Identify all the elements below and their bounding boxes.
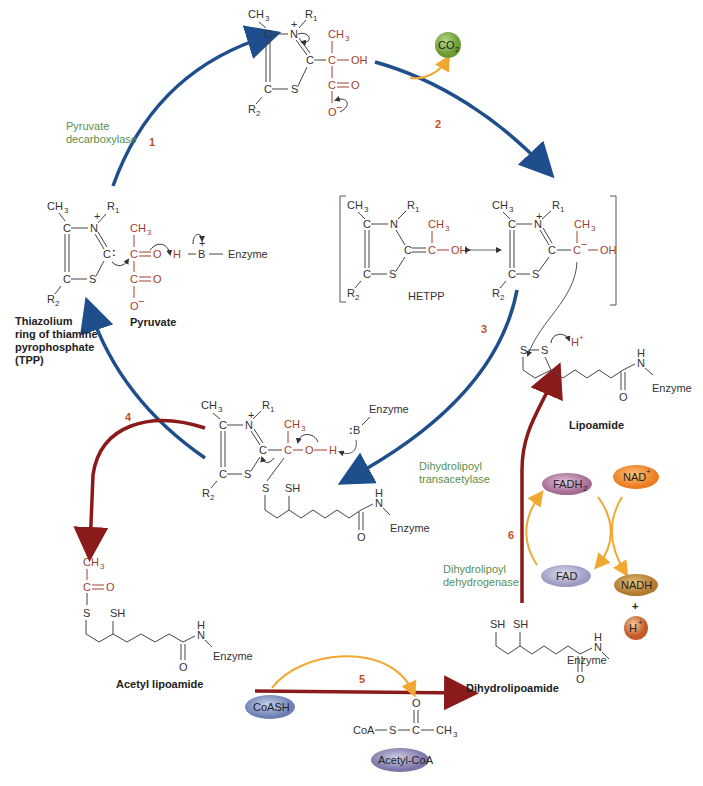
svg-text:Acetyl-CoA: Acetyl-CoA bbox=[378, 754, 434, 766]
step-3-enzyme-label-2: transacetylase bbox=[419, 473, 490, 485]
svg-text:R: R bbox=[347, 287, 355, 299]
svg-text:3: 3 bbox=[147, 228, 152, 237]
svg-text:1: 1 bbox=[560, 205, 565, 214]
coash-pill: CoASH bbox=[245, 695, 295, 719]
svg-text:NAD: NAD bbox=[623, 471, 646, 483]
svg-text:H: H bbox=[375, 487, 383, 499]
svg-text:CH: CH bbox=[83, 556, 99, 568]
plus-sign: + bbox=[632, 600, 638, 612]
step-1-enzyme-label: Pyruvate bbox=[66, 120, 109, 132]
svg-text:3: 3 bbox=[591, 224, 596, 233]
svg-text:H: H bbox=[571, 336, 579, 348]
step-4-number: 4 bbox=[125, 411, 132, 423]
lipoamide-caption: Lipoamide bbox=[569, 419, 624, 431]
svg-text:C: C bbox=[363, 268, 371, 280]
svg-text:3: 3 bbox=[453, 730, 458, 739]
svg-text:N: N bbox=[245, 419, 253, 431]
dihydrolipoamide: SH SH O N H Enzyme bbox=[490, 618, 609, 685]
tpp-caption: Thiazolium bbox=[15, 315, 73, 327]
svg-text:FAD: FAD bbox=[556, 570, 577, 582]
svg-text:3: 3 bbox=[265, 14, 270, 23]
svg-text:C: C bbox=[508, 268, 516, 280]
dihydrolipoamide-caption: Dihydrolipoamide bbox=[466, 682, 559, 694]
svg-text:−: − bbox=[581, 238, 587, 250]
svg-text:H: H bbox=[629, 622, 637, 634]
svg-text:H: H bbox=[329, 444, 337, 456]
svg-text:Enzyme: Enzyme bbox=[228, 248, 268, 260]
step-6-enzyme-label: Dihydrolipoyl bbox=[443, 563, 506, 575]
svg-text:S: S bbox=[291, 83, 298, 95]
svg-text:S: S bbox=[244, 468, 251, 480]
svg-text:C: C bbox=[130, 248, 138, 260]
svg-text:3: 3 bbox=[301, 424, 306, 433]
svg-text:CoASH: CoASH bbox=[253, 701, 290, 713]
svg-text:3: 3 bbox=[218, 405, 223, 414]
svg-text:H: H bbox=[594, 631, 602, 643]
svg-text:+: + bbox=[646, 467, 651, 476]
svg-text:Enzyme: Enzyme bbox=[369, 403, 409, 415]
svg-text:C: C bbox=[363, 218, 371, 230]
svg-text:C: C bbox=[264, 28, 272, 40]
svg-text:2: 2 bbox=[55, 299, 60, 308]
svg-text:3: 3 bbox=[345, 34, 350, 43]
co2-molecule: CO 2 bbox=[435, 32, 461, 58]
svg-text:C: C bbox=[219, 468, 227, 480]
svg-text:H: H bbox=[637, 347, 645, 359]
svg-text:R: R bbox=[492, 287, 500, 299]
svg-text:2: 2 bbox=[210, 493, 215, 502]
acetyl-coa-pill: Acetyl-CoA bbox=[371, 748, 434, 772]
svg-text:C: C bbox=[103, 248, 111, 260]
coash-to-acetylcoa-arrow bbox=[272, 656, 413, 692]
svg-text:Enzyme: Enzyme bbox=[213, 650, 253, 662]
nad-pill: NAD + bbox=[613, 465, 659, 489]
svg-text:+: + bbox=[579, 333, 584, 342]
svg-text:O: O bbox=[351, 79, 360, 91]
svg-text:2: 2 bbox=[455, 45, 460, 54]
acyl-intermediate: CH3 R1 + C N C C S R2 C CH3 O H : B Enzy… bbox=[201, 399, 430, 543]
svg-text:Enzyme: Enzyme bbox=[390, 522, 430, 534]
step-6-enzyme-label-2: dehydrogenase bbox=[443, 576, 519, 588]
svg-text:O: O bbox=[106, 581, 115, 593]
svg-text:R: R bbox=[552, 199, 560, 211]
svg-text:CH: CH bbox=[47, 200, 63, 212]
svg-text:O: O bbox=[357, 531, 366, 543]
svg-text:+: + bbox=[291, 18, 297, 30]
tpp-and-pyruvate: CH3 R1 + C N C : C S R2 CH3 C O C O O − … bbox=[47, 200, 268, 312]
h-ion-ball: H + bbox=[624, 616, 648, 640]
svg-text:R: R bbox=[248, 103, 256, 115]
svg-text:2: 2 bbox=[583, 484, 588, 493]
svg-text:C: C bbox=[328, 54, 336, 66]
svg-text:R: R bbox=[305, 8, 313, 20]
acetyl-lipoamide: CH3 C O S SH O N H Enzyme bbox=[83, 556, 253, 673]
svg-text:H: H bbox=[173, 248, 181, 260]
step-5-number: 5 bbox=[359, 673, 365, 685]
svg-text:S: S bbox=[389, 724, 396, 736]
svg-text:B: B bbox=[353, 424, 360, 436]
svg-text:CH: CH bbox=[428, 218, 444, 230]
step-4-arrow bbox=[90, 421, 205, 548]
svg-text:C: C bbox=[412, 724, 420, 736]
svg-text:−: − bbox=[138, 295, 144, 307]
nadh-pill: NADH bbox=[614, 574, 658, 596]
svg-text:3: 3 bbox=[100, 562, 105, 571]
svg-text:O: O bbox=[153, 248, 162, 260]
step-6-number: 6 bbox=[508, 529, 514, 541]
svg-text:S: S bbox=[262, 482, 269, 494]
hetpp-caption: HETPP bbox=[408, 290, 445, 302]
nad-to-nadh-arrow bbox=[612, 497, 625, 572]
svg-text:OH: OH bbox=[451, 244, 468, 256]
svg-text:C: C bbox=[219, 419, 227, 431]
svg-text:CoA: CoA bbox=[353, 724, 375, 736]
svg-text:N: N bbox=[534, 218, 542, 230]
step-1-number: 1 bbox=[149, 136, 155, 148]
acetyl-lipoamide-caption: Acetyl lipoamide bbox=[116, 678, 203, 690]
svg-text:O: O bbox=[305, 444, 314, 456]
svg-text:OH: OH bbox=[351, 54, 368, 66]
hetpp-resonance: CH3 R1 C N C C S R2 C CH3 OH CH3 R1 + C … bbox=[340, 196, 617, 355]
svg-text:C: C bbox=[573, 244, 581, 256]
step-2-number: 2 bbox=[435, 118, 441, 130]
svg-text:R: R bbox=[47, 293, 55, 305]
svg-text:O: O bbox=[619, 391, 628, 403]
svg-text:CO: CO bbox=[438, 39, 455, 51]
fad-to-fadh2-arrow bbox=[526, 495, 540, 565]
